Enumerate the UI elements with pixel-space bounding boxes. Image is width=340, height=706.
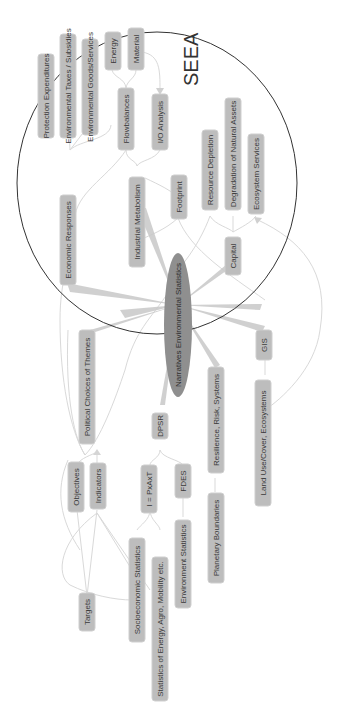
seea-label: SEEA [180,32,202,86]
node-protection-expenditures[interactable]: Protection Expenditures [38,54,54,139]
node-environment-statistics[interactable]: Environment Statistics [175,520,191,608]
node-statistics-energy[interactable]: Statistics of Energy, Agro, Mobility etc… [152,557,168,701]
node-environmental-taxes[interactable]: Environmental Taxes / Subsidies [60,28,76,143]
svg-text:I = PxAxT: I = PxAxT [145,471,154,506]
node-land-use[interactable]: Land Use/Cover, Ecosystems [255,380,271,506]
svg-text:Environment Statistics: Environment Statistics [179,524,188,603]
svg-text:Socioeconomic Statistics: Socioeconomic Statistics [133,546,142,634]
svg-text:Protection Expenditures: Protection Expenditures [42,54,51,139]
svg-text:Footprint: Footprint [175,180,184,212]
node-industrial-metabolism[interactable]: Industrial Metabolism [129,177,145,267]
svg-text:Energy: Energy [109,38,118,63]
svg-text:Planetary Boundaries: Planetary Boundaries [212,500,221,577]
node-capital[interactable]: Capital [225,237,241,275]
node-objectives[interactable]: Objectives [68,462,84,512]
node-economic-responses[interactable]: Economic Responses [60,195,76,285]
svg-text:Targets: Targets [83,599,92,625]
svg-text:FDES: FDES [179,470,188,491]
svg-text:Economic Responses: Economic Responses [64,201,73,278]
svg-text:I/O Analysis: I/O Analysis [156,101,165,143]
node-indicators[interactable]: Indicators [90,463,106,509]
node-fdes[interactable]: FDES [175,464,191,498]
svg-text:Resilience, Risk, Systems: Resilience, Risk, Systems [212,374,221,466]
svg-text:Ecosystem Services: Ecosystem Services [252,138,261,210]
svg-text:Flowbalances: Flowbalances [122,95,131,144]
node-energy[interactable]: Energy [105,32,121,70]
node-ecosystem-services[interactable]: Ecosystem Services [248,134,264,214]
node-degradation[interactable]: Degradation of Natural Assets [225,98,241,210]
svg-text:Resource Depletion: Resource Depletion [206,135,215,205]
svg-text:Land Use/Cover, Ecosystems: Land Use/Cover, Ecosystems [259,391,268,496]
svg-text:Political Choices of Themes: Political Choices of Themes [83,338,92,437]
mind-map-canvas: SEEA Narratives Environmental Statistics… [0,0,340,706]
node-gis[interactable]: GIS [256,330,272,360]
node-resource-depletion[interactable]: Resource Depletion [202,130,218,210]
center-node[interactable]: Narratives Environmental Statistics [164,253,192,397]
node-dpsr[interactable]: DPSR [152,413,168,439]
center-label: Narratives Environmental Statistics [174,263,183,387]
svg-text:Indicators: Indicators [94,469,103,504]
svg-text:GIS: GIS [260,338,269,352]
svg-text:Environmental Taxes / Subsidie: Environmental Taxes / Subsidies [64,28,73,143]
node-ipat[interactable]: I = PxAxT [141,465,157,513]
node-io-analysis[interactable]: I/O Analysis [152,94,168,150]
node-targets[interactable]: Targets [79,593,95,631]
svg-text:Statistics of Energy, Agro, Mo: Statistics of Energy, Agro, Mobility etc… [156,561,165,696]
node-footprint[interactable]: Footprint [171,175,187,219]
svg-text:Capital: Capital [229,243,238,268]
node-environmental-goods[interactable]: Environmental Goods/Services [82,32,98,142]
node-flowbalances[interactable]: Flowbalances [118,88,134,150]
svg-text:Degradation of Natural Assets: Degradation of Natural Assets [229,101,238,207]
svg-text:DPSR: DPSR [156,415,165,437]
svg-text:Objectives: Objectives [72,468,81,505]
node-resilience[interactable]: Resilience, Risk, Systems [208,367,224,473]
node-political-choices[interactable]: Political Choices of Themes [79,330,95,444]
node-material[interactable]: Material [128,28,144,70]
node-planetary-boundaries[interactable]: Planetary Boundaries [208,493,224,583]
svg-text:Material: Material [132,35,141,64]
svg-text:Industrial Metabolism: Industrial Metabolism [133,184,142,260]
node-socioeconomic[interactable]: Socioeconomic Statistics [129,538,145,642]
svg-text:Environmental Goods/Services: Environmental Goods/Services [86,32,95,142]
